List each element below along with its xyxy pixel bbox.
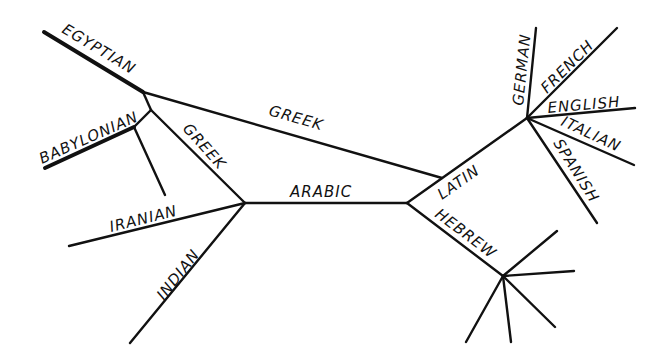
label-babylonian: BABYLONIAN bbox=[36, 108, 141, 168]
branch-english: ENGLISH bbox=[527, 93, 635, 118]
label-iranian: IRANIAN bbox=[108, 202, 180, 236]
label-german: GERMAN bbox=[509, 33, 534, 106]
label-hebrew: HEBREW bbox=[432, 205, 500, 263]
branch-babylonian: BABYLONIAN bbox=[36, 108, 165, 195]
label-arabic: ARABIC bbox=[289, 183, 352, 201]
label-english: ENGLISH bbox=[547, 93, 621, 117]
branch-latin: LATIN bbox=[407, 118, 527, 203]
branch-hebrew: HEBREW bbox=[407, 203, 574, 342]
branch-german: GERMAN bbox=[509, 28, 536, 118]
language-tree-diagram: EGYPTIAN GREEK BABYLONIAN GREEK ARABIC I… bbox=[0, 0, 672, 360]
branch-greek-lower: GREEK bbox=[151, 110, 245, 203]
label-french: FRENCH bbox=[537, 36, 597, 96]
branch-arabic: ARABIC bbox=[245, 183, 407, 203]
branch-iranian: IRANIAN bbox=[69, 202, 245, 246]
label-spanish: SPANISH bbox=[550, 136, 603, 206]
branch-italian: ITALIAN bbox=[527, 112, 634, 165]
branch-egyptian: EGYPTIAN bbox=[44, 20, 143, 92]
label-indian: INDIAN bbox=[153, 246, 204, 304]
